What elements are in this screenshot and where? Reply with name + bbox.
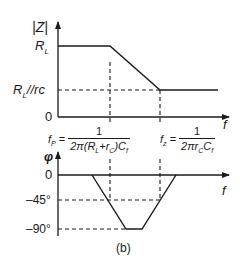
tick-label-rl-parallel-rc: RL//rc bbox=[13, 83, 45, 100]
tick-rl-main: R bbox=[35, 38, 44, 53]
fp-denominator: 2π(RL+rC)Cf bbox=[68, 138, 130, 154]
tick-rl-sub: L bbox=[44, 47, 48, 56]
figure-caption: (b) bbox=[116, 242, 131, 254]
magnitude-y-axis-label: |Z| bbox=[32, 20, 48, 34]
tick-label-minus-45: –45° bbox=[26, 194, 51, 206]
formula-fp: fP = 1 2π(RL+rC)Cf bbox=[48, 125, 130, 154]
magnitude-guides bbox=[58, 62, 160, 124]
phase-axes bbox=[58, 152, 229, 236]
fz-lhs: fz = bbox=[160, 133, 176, 147]
magnitude-axes bbox=[58, 22, 229, 117]
phase-y-axis-label: φ bbox=[44, 150, 53, 163]
fz-numerator: 1 bbox=[192, 125, 202, 138]
phase-curve bbox=[92, 175, 176, 229]
bode-diagram: |Z| RL RL//rc 0 f fP = 1 2π(RL+rC)Cf fz … bbox=[0, 0, 240, 261]
magnitude-x-axis-label: f bbox=[223, 118, 227, 131]
phase-guides bbox=[58, 159, 160, 229]
fp-lhs: fP = bbox=[48, 133, 65, 147]
phase-x-axis-label: f bbox=[222, 184, 226, 197]
fz-denominator: 2πrCCf bbox=[179, 138, 215, 154]
tick-label-zero-magnitude: 0 bbox=[45, 110, 52, 123]
fp-fraction: 1 2π(RL+rC)Cf bbox=[68, 125, 130, 154]
formula-fz: fz = 1 2πrCCf bbox=[160, 125, 215, 154]
fz-fraction: 1 2πrCCf bbox=[179, 125, 215, 154]
magnitude-curve bbox=[58, 46, 218, 90]
tick-label-zero-phase: 0 bbox=[45, 168, 52, 181]
tick-rlrc-rest: //rc bbox=[27, 82, 45, 97]
tick-label-rl: RL bbox=[35, 39, 49, 56]
fp-numerator: 1 bbox=[94, 125, 104, 138]
tick-rlrc-main: R bbox=[13, 82, 22, 97]
tick-label-minus-90: –90° bbox=[26, 223, 51, 235]
